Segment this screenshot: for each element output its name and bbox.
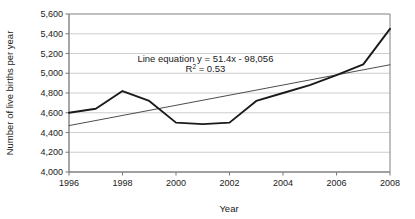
x-tick-label-1998: 1998 [112, 178, 132, 188]
x-tick-label-2008: 2008 [380, 178, 400, 188]
r-squared-value: = 0.53 [196, 63, 225, 74]
x-tick-label-2006: 2006 [326, 178, 346, 188]
chart-container: 4,0004,2004,4004,6004,8005,0005,2005,400… [0, 0, 415, 219]
x-tick-label-1996: 1996 [59, 178, 79, 188]
y-tick-label-4600: 4,600 [40, 108, 63, 118]
x-tick-label-2002: 2002 [219, 178, 239, 188]
x-tick-label-2004: 2004 [273, 178, 293, 188]
y-tick-label-4400: 4,400 [40, 128, 63, 138]
r-squared-annotation: R2 = 0.53 [186, 63, 226, 75]
y-tick-label-4000: 4,000 [40, 167, 63, 177]
y-tick-label-5000: 5,000 [40, 68, 63, 78]
y-tick-label-4200: 4,200 [40, 147, 63, 157]
y-tick-label-5400: 5,400 [40, 29, 63, 39]
y-tick-label-4800: 4,800 [40, 88, 63, 98]
live-births-line-chart: 4,0004,2004,4004,6004,8005,0005,2005,400… [0, 0, 415, 219]
y-axis-title: Number of live births per year [4, 31, 15, 156]
y-tick-label-5200: 5,200 [40, 49, 63, 59]
x-tick-label-2000: 2000 [166, 178, 186, 188]
y-tick-label-5600: 5,600 [40, 9, 63, 19]
x-axis-title: Year [219, 203, 238, 214]
